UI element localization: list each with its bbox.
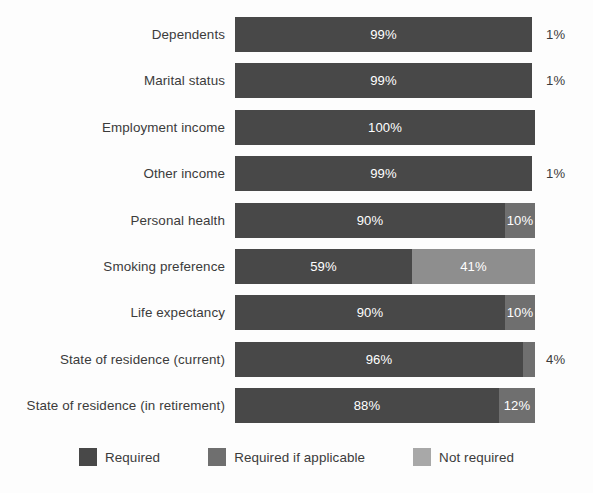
legend-item[interactable]: Required [79,448,160,466]
chart-row: Life expectancy90%10% [0,295,593,341]
category-label: Marital status [0,63,225,98]
category-label: Employment income [0,110,225,145]
bar-value-label: 10% [507,213,534,228]
bar-track: 59%41% [235,249,535,284]
bar-segment[interactable]: 41% [412,249,535,284]
bar-value-label: 99% [370,73,397,88]
bar-track: 100% [235,110,535,145]
stacked-bar-chart: Dependents99%1%Marital status99%1%Employ… [0,0,593,493]
bar-outside-value-label: 4% [546,342,565,377]
category-label: Dependents [0,17,225,52]
bar-outside-value-label: 1% [546,156,565,191]
legend-item[interactable]: Not required [413,448,514,466]
bar-value-label: 99% [370,166,397,181]
bar-value-label: 12% [504,398,531,413]
bar-value-label: 96% [366,352,393,367]
bar-value-label: 90% [357,213,384,228]
bar-value-label: 88% [354,398,381,413]
bar-value-label: 90% [357,305,384,320]
bar-segment[interactable]: 99% [235,63,532,98]
category-label: State of residence (current) [0,342,225,377]
legend-swatch-icon [208,448,226,466]
chart-row: Dependents99%1% [0,17,593,63]
legend-label: Required if applicable [234,450,365,465]
bar-track: 99% [235,156,535,191]
bar-track: 90%10% [235,295,535,330]
chart-plot-area: Dependents99%1%Marital status99%1%Employ… [0,17,593,435]
chart-legend: RequiredRequired if applicableNot requir… [0,448,593,466]
category-label: Life expectancy [0,295,225,330]
bar-outside-value-label: 1% [546,17,565,52]
bar-track: 99% [235,17,535,52]
chart-row: Other income99%1% [0,156,593,202]
bar-value-label: 10% [507,305,534,320]
bar-segment[interactable]: 59% [235,249,412,284]
category-label: State of residence (in retirement) [0,388,225,423]
bar-segment[interactable]: 99% [235,156,532,191]
bar-value-label: 59% [310,259,337,274]
bar-segment[interactable]: 12% [499,388,535,423]
bar-segment[interactable]: 90% [235,203,505,238]
bar-segment[interactable]: 88% [235,388,499,423]
bar-value-label: 99% [370,27,397,42]
bar-track: 96% [235,342,535,377]
bar-segment[interactable]: 96% [235,342,523,377]
bar-track: 99% [235,63,535,98]
bar-segment[interactable]: 90% [235,295,505,330]
bar-track: 90%10% [235,203,535,238]
bar-segment[interactable]: 100% [235,110,535,145]
chart-row: Smoking preference59%41% [0,249,593,295]
legend-label: Not required [439,450,514,465]
legend-swatch-icon [79,448,97,466]
bar-segment[interactable]: 99% [235,17,532,52]
bar-segment[interactable]: 10% [505,203,535,238]
chart-row: State of residence (in retirement)88%12% [0,388,593,434]
bar-value-label: 100% [368,120,402,135]
chart-row: Personal health90%10% [0,203,593,249]
bar-track: 88%12% [235,388,535,423]
legend-swatch-icon [413,448,431,466]
bar-segment[interactable]: 10% [505,295,535,330]
chart-row: State of residence (current)96%4% [0,342,593,388]
chart-row: Marital status99%1% [0,63,593,109]
chart-row: Employment income100% [0,110,593,156]
bar-segment[interactable] [523,342,535,377]
category-label: Other income [0,156,225,191]
bar-value-label: 41% [460,259,487,274]
legend-item[interactable]: Required if applicable [208,448,365,466]
category-label: Smoking preference [0,249,225,284]
bar-outside-value-label: 1% [546,63,565,98]
category-label: Personal health [0,203,225,238]
legend-label: Required [105,450,160,465]
